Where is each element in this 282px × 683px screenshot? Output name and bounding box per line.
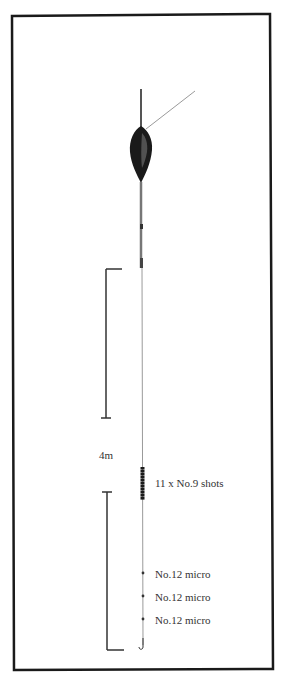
dropper-shot-label: No.12 micro: [155, 591, 211, 603]
hook-icon: [139, 638, 143, 649]
depth-bracket-lower: [102, 492, 124, 650]
dropper-shot-icon: [142, 572, 145, 575]
bulk-shot-label: 11 x No.9 shots: [155, 477, 224, 489]
dropper-shot-icon: [142, 595, 145, 598]
main-line: [142, 268, 143, 645]
diagram-canvas: 4m 11 x No.9 shots No.12 micro No.12 mic…: [0, 0, 282, 683]
rig-diagram: 4m 11 x No.9 shots No.12 micro No.12 mic…: [0, 0, 282, 683]
dropper-shot-icon: [142, 618, 145, 621]
dropper-shot-label: No.12 micro: [155, 614, 211, 626]
main-line-to-rod: [146, 91, 195, 129]
float-body-icon: [130, 126, 152, 183]
dropper-shot-label: No.12 micro: [155, 568, 211, 580]
float-stem-marker: [140, 224, 143, 229]
depth-bracket-upper: [101, 269, 122, 418]
float-stem-end: [140, 258, 143, 268]
bulk-shot-icon: [141, 467, 145, 500]
depth-label: 4m: [99, 449, 114, 461]
